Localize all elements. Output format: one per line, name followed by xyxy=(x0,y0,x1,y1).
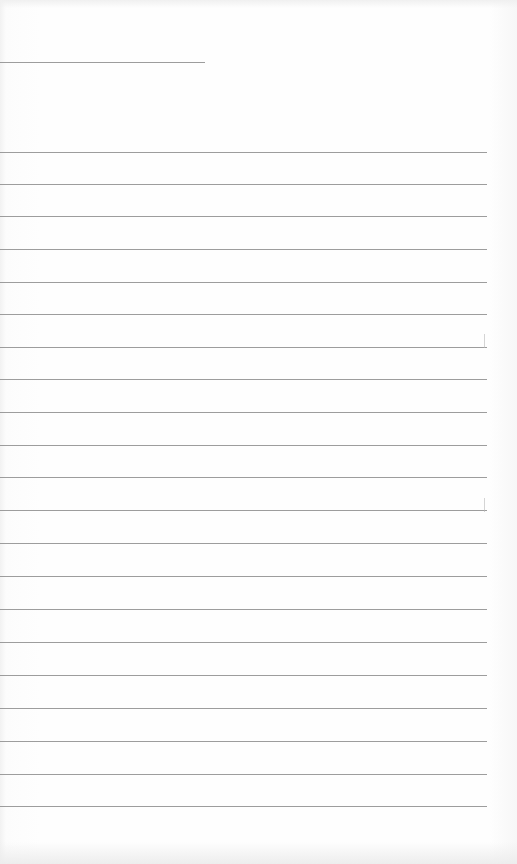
ruled-line xyxy=(0,282,487,283)
ruled-line xyxy=(0,774,487,775)
ruled-line xyxy=(0,576,487,577)
ruled-line xyxy=(0,675,487,676)
ruled-line xyxy=(0,249,487,250)
ruled-line xyxy=(0,184,487,185)
paper-smudge-mark xyxy=(484,498,485,512)
ruled-line xyxy=(0,741,487,742)
ruled-line xyxy=(0,347,487,348)
ruled-line xyxy=(0,510,487,511)
ruled-line xyxy=(0,216,487,217)
ruled-line xyxy=(0,412,487,413)
ruled-line xyxy=(0,152,487,153)
ruled-line xyxy=(0,314,487,315)
ruled-line xyxy=(0,708,487,709)
ruled-line xyxy=(0,642,487,643)
ruled-line xyxy=(0,477,487,478)
ruled-line xyxy=(0,806,487,807)
ruled-line xyxy=(0,445,487,446)
paper-top-edge xyxy=(0,0,517,8)
paper-smudge-mark xyxy=(484,334,485,348)
header-line xyxy=(0,62,205,63)
ruled-line xyxy=(0,543,487,544)
paper-bottom-edge xyxy=(0,842,517,864)
ruled-line xyxy=(0,609,487,610)
ruled-line xyxy=(0,379,487,380)
lined-paper-sheet xyxy=(0,0,517,864)
